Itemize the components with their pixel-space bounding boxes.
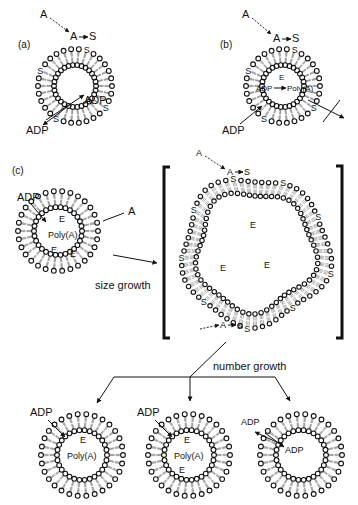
lipid-head-icon [199, 474, 204, 479]
vesicle-reproduction-diagram: (a) SSSS A A S ADP ADP (b) SSSS A A S E … [0, 0, 358, 505]
lipid-head-icon [256, 56, 261, 61]
lipid-head-icon [262, 52, 267, 57]
lipid-head-icon [84, 119, 89, 124]
lipid-head-icon [227, 444, 232, 449]
lipid-head-icon [284, 120, 289, 125]
adp-in-label-b: ADP [222, 124, 245, 136]
lipid-head-icon [253, 326, 257, 330]
lipid-head-icon [43, 267, 48, 272]
lipid-head-icon [32, 229, 37, 234]
reaction-a-to: S [89, 30, 96, 42]
lipid-head-icon [328, 249, 332, 253]
lipid-head-icon [69, 47, 74, 52]
lipid-head-icon [43, 191, 48, 196]
lipid-head-icon [92, 414, 97, 419]
lipid-head-icon [247, 99, 252, 104]
lipid-head-icon [274, 318, 278, 322]
surfactant-glyph: S [245, 66, 251, 76]
lipid-head-icon [194, 476, 199, 481]
lipid-head-icon [77, 477, 82, 482]
surfactant-glyph: S [315, 212, 321, 222]
lipid-head-icon [162, 453, 167, 458]
lipid-head-icon [88, 205, 93, 210]
lipid-head-icon [285, 309, 289, 313]
lipid-head-icon [278, 467, 283, 472]
lipid-head-icon [253, 180, 257, 184]
lipid-head-icon [67, 492, 72, 497]
lipid-head-icon [174, 414, 179, 419]
lipid-head-icon [301, 428, 306, 433]
precursor-b-label: A [242, 8, 250, 20]
lipid-head-icon [76, 263, 81, 268]
large-vesicle-content-2: E [264, 260, 270, 270]
lipid-head-icon [59, 467, 64, 472]
lipid-head-icon [97, 56, 102, 61]
lipid-head-icon [207, 286, 211, 290]
precursor-c-leader [103, 213, 124, 221]
lipid-head-icon [184, 428, 189, 433]
lipid-head-icon [110, 84, 115, 89]
lipid-head-icon [301, 477, 306, 482]
lipid-head-icon [314, 249, 318, 253]
lipid-head-icon [332, 477, 337, 482]
lipid-head-icon [227, 461, 232, 466]
lipid-head-icon [307, 232, 311, 236]
daughter-2-adp-label: ADP [137, 406, 160, 418]
branch-arrow-right [275, 377, 290, 401]
lipid-head-icon [196, 272, 200, 276]
lipid-head-icon [149, 436, 154, 441]
lipid-head-icon [184, 477, 189, 482]
surfactant-glyph: S [280, 178, 286, 188]
lipid-head-icon [256, 111, 261, 116]
lipid-head-icon [320, 228, 324, 232]
daughter-1-content-1: Poly(A) [67, 451, 97, 461]
lipid-head-icon [326, 422, 331, 427]
lipid-head-icon [217, 195, 221, 199]
lipid-head-icon [36, 263, 41, 268]
lipid-head-icon [191, 290, 195, 294]
lipid-head-icon [208, 304, 212, 308]
lipid-head-icon [266, 180, 270, 184]
lipid-head-icon [57, 442, 62, 447]
lipid-head-icon [299, 116, 304, 121]
lipid-head-icon [194, 267, 198, 271]
lipid-head-icon [36, 84, 41, 89]
lipid-head-icon [214, 422, 219, 427]
lipid-head-icon [318, 84, 323, 89]
large-vesicle-content-1: E [220, 263, 226, 273]
lipid-head-icon [189, 477, 194, 482]
lipid-head-icon [19, 212, 24, 217]
lipid-head-icon [271, 483, 276, 488]
adp-out-label-a: ADP [26, 124, 49, 136]
lipid-head-icon [166, 417, 171, 422]
lipid-head-icon [279, 313, 283, 317]
lipid-head-icon [308, 294, 312, 298]
lipid-head-icon [43, 105, 48, 110]
precursor-large-label: A [196, 148, 202, 158]
lipid-head-icon [269, 194, 273, 198]
lipid-head-icon [109, 91, 114, 96]
lipid-head-icon [207, 438, 212, 443]
lipid-head-icon [318, 222, 322, 226]
lipid-head-icon [274, 453, 279, 458]
lipid-head-icon [153, 429, 158, 434]
lipid-head-icon [61, 119, 66, 124]
lipid-head-icon [319, 417, 324, 422]
lipid-head-icon [251, 62, 256, 67]
lipid-head-icon [305, 196, 309, 200]
lipid-head-icon [201, 233, 205, 237]
lipid-head-icon [321, 442, 326, 447]
lipid-head-icon [291, 476, 296, 481]
lipid-head-icon [251, 105, 256, 110]
panel-a: (a) SSSS A A S ADP ADP [18, 8, 114, 136]
lipid-head-icon [120, 444, 125, 449]
lipid-head-icon [278, 296, 282, 300]
lipid-head-icon [68, 267, 73, 272]
daughter-2-content-1: Poly(A) [174, 451, 204, 461]
lipid-head-icon [213, 308, 217, 312]
lipid-head-icon [23, 252, 28, 257]
lipid-head-icon [309, 202, 313, 206]
lipid-head-icon [228, 453, 233, 458]
lipid-head-icon [265, 429, 270, 434]
lipid-head-icon [198, 243, 202, 247]
